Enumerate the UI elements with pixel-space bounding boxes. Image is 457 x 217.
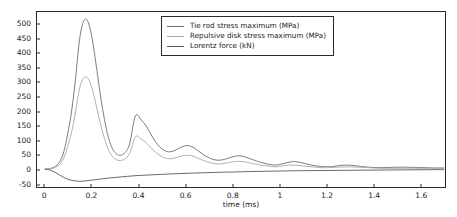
legend-label: Repulsive disk stress maximum (MPa) <box>190 32 326 39</box>
x-tick-label: 0.2 <box>85 192 97 200</box>
y-tick-mark <box>36 67 40 68</box>
x-tick-label: 1 <box>277 192 282 200</box>
x-tick-label: 0.8 <box>227 192 239 200</box>
x-tick-mark <box>44 184 45 188</box>
y-tick-label: 450 <box>0 35 31 43</box>
y-tick-mark <box>36 38 40 39</box>
y-tick-mark <box>36 155 40 156</box>
y-tick-mark <box>36 126 40 127</box>
y-tick-label: 100 <box>0 137 31 145</box>
y-tick-mark <box>36 97 40 98</box>
series-line-3 <box>45 169 444 181</box>
x-tick-mark <box>91 184 92 188</box>
legend-entry[interactable]: Lorentz force (kN) <box>167 41 326 51</box>
y-tick-label: 200 <box>0 108 31 116</box>
y-tick-mark <box>36 82 40 83</box>
x-axis-title: time (ms) <box>36 200 446 209</box>
y-tick-mark <box>36 184 40 185</box>
x-tick-mark <box>327 184 328 188</box>
x-tick-label: 0.4 <box>133 192 145 200</box>
x-tick-label: 1.6 <box>415 192 427 200</box>
y-tick-label: -50 <box>0 181 31 189</box>
legend-entry[interactable]: Tie rod stress maximum (MPa) <box>167 21 326 31</box>
x-tick-mark <box>279 184 280 188</box>
legend: Tie rod stress maximum (MPa)Repulsive di… <box>161 16 334 56</box>
x-tick-mark <box>374 184 375 188</box>
y-tick-mark <box>36 53 40 54</box>
x-tick-label: 0.6 <box>180 192 192 200</box>
y-tick-label: 500 <box>0 20 31 28</box>
y-tick-mark <box>36 24 40 25</box>
legend-swatch-line-icon <box>167 46 184 47</box>
y-tick-label: 350 <box>0 64 31 72</box>
y-tick-label: 300 <box>0 79 31 87</box>
x-tick-mark <box>185 184 186 188</box>
x-tick-label: 1.2 <box>321 192 333 200</box>
legend-label: Tie rod stress maximum (MPa) <box>190 22 299 29</box>
x-tick-mark <box>138 184 139 188</box>
legend-swatch-line-icon <box>167 26 184 27</box>
y-tick-mark <box>36 140 40 141</box>
x-tick-mark <box>421 184 422 188</box>
y-tick-label: 250 <box>0 93 31 101</box>
legend-label: Lorentz force (kN) <box>190 42 254 49</box>
legend-entry[interactable]: Repulsive disk stress maximum (MPa) <box>167 31 326 41</box>
y-tick-label: 400 <box>0 50 31 58</box>
y-tick-label: 150 <box>0 122 31 130</box>
x-tick-label: 1.4 <box>368 192 380 200</box>
y-tick-mark <box>36 169 40 170</box>
x-tick-mark <box>232 184 233 188</box>
y-tick-label: 0 <box>0 166 31 174</box>
y-tick-mark <box>36 111 40 112</box>
y-tick-label: 50 <box>0 152 31 160</box>
legend-swatch-line-icon <box>167 36 184 37</box>
figure: -50050100150200250300350400450500 00.20.… <box>0 0 457 217</box>
x-tick-label: 0 <box>42 192 47 200</box>
